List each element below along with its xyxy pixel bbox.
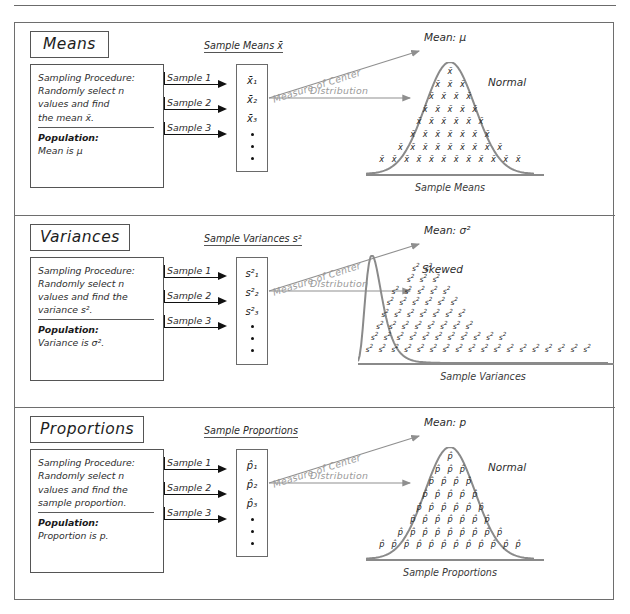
sample-arrow-label: Sample 3 [167, 122, 211, 133]
distribution-glyph: s2 [455, 344, 463, 353]
sample-arrow-line [164, 109, 222, 110]
sample-arrow-label: Sample 2 [167, 482, 211, 493]
distribution-glyph: p̂ [503, 540, 508, 548]
panel-title-proportions: Proportions [30, 416, 144, 443]
distribution-glyph: x̄ [460, 79, 465, 87]
distribution-glyph: x̄ [441, 92, 446, 100]
distribution-glyph: x̄ [466, 92, 471, 100]
procedure-line: variance s². [38, 303, 156, 316]
list-item: p̂₁ [247, 456, 257, 475]
distribution-glyph: s2 [443, 286, 451, 295]
distribution-name-means: Normal [488, 76, 526, 88]
procedure-line: Sampling Procedure: [38, 264, 156, 277]
distribution-glyph: x̄ [472, 130, 477, 138]
distribution-glyph: x̄ [423, 130, 428, 138]
distribution-glyph: x̄ [454, 155, 459, 163]
distribution-glyph: s2 [399, 298, 407, 307]
distribution-glyph: p̂ [398, 528, 403, 536]
population-value: Variance is σ². [38, 336, 156, 349]
axis-caption-variances: Sample Variances [440, 371, 526, 382]
sample-arrow-tick [164, 72, 165, 84]
distribution-glyph: s2 [532, 344, 540, 353]
distribution-glyph: p̂ [423, 490, 428, 498]
distribution-glyph: x̄ [460, 142, 465, 150]
distribution-glyph: p̂ [435, 515, 440, 523]
distribution-glyph: s2 [402, 321, 410, 330]
sample-arrow-label: Sample 1 [167, 457, 211, 468]
procedure-line: Randomly select n [38, 469, 156, 482]
sample-list-box-proportions: p̂₁p̂₂p̂₃ [236, 449, 268, 557]
sample-arrow-label: Sample 3 [167, 315, 211, 326]
list-ellipsis-dot [251, 133, 254, 136]
distribution-label: Distribution [310, 85, 368, 96]
procedure-box-variances: Sampling Procedure:Randomly select nvalu… [30, 257, 164, 381]
distribution-glyph: s2 [435, 333, 443, 342]
distribution-glyph: p̂ [447, 452, 452, 460]
distribution-glyph: p̂ [478, 540, 483, 548]
distribution-glyph: p̂ [485, 515, 490, 523]
distribution-glyph: s2 [417, 344, 425, 353]
distribution-glyph: p̂ [447, 515, 452, 523]
distribution-glyph: s2 [570, 344, 578, 353]
distribution-glyph: x̄ [454, 92, 459, 100]
distribution-glyph: s2 [432, 275, 440, 284]
distribution-glyph: s2 [404, 286, 412, 295]
distribution-glyph: s2 [473, 333, 481, 342]
distribution-glyph: p̂ [423, 515, 428, 523]
procedure-line: sample proportion. [38, 496, 156, 509]
sample-arrow-line [164, 494, 222, 495]
distribution-glyph: x̄ [448, 67, 453, 75]
distribution-glyph: x̄ [429, 117, 434, 125]
distribution-glyph: p̂ [460, 490, 465, 498]
distribution-glyph: s2 [425, 298, 433, 307]
distribution-glyph: x̄ [429, 92, 434, 100]
distribution-glyph: x̄ [423, 142, 428, 150]
sample-arrow-line [164, 519, 222, 520]
distribution-glyph: p̂ [379, 540, 384, 548]
distribution-glyph: p̂ [447, 528, 452, 536]
distribution-glyph: s2 [417, 286, 425, 295]
distribution-glyph: p̂ [441, 502, 446, 510]
distribution-glyph: p̂ [460, 465, 465, 473]
procedure-line: Randomly select n [38, 84, 156, 97]
distribution-glyph: x̄ [448, 142, 453, 150]
sample-list-box-variances: s²₁s²₂s²₃ [236, 257, 268, 365]
list-item: x̄₁ [247, 71, 257, 90]
sample-arrow-tick [164, 97, 165, 109]
axis-caption-proportions: Sample Proportions [403, 567, 497, 578]
distribution-glyph: s2 [376, 321, 384, 330]
distribution-glyph: s2 [558, 344, 566, 353]
sample-arrow-line [164, 277, 222, 278]
sample-list-box-means: x̄₁x̄₂x̄₃ [236, 64, 268, 172]
distribution-glyph: x̄ [410, 142, 415, 150]
distribution-glyph: s2 [466, 321, 474, 330]
distribution-glyph: p̂ [460, 515, 465, 523]
procedure-box-proportions: Sampling Procedure:Randomly select nvalu… [30, 449, 164, 573]
distribution-glyph: p̂ [466, 540, 471, 548]
distribution-glyph: s2 [420, 309, 428, 318]
list-item: p̂₂ [247, 475, 257, 494]
distribution-name-proportions: Normal [488, 461, 526, 473]
distribution-glyph: p̂ [423, 528, 428, 536]
list-ellipsis-dot [251, 518, 254, 521]
sample-arrow-line [164, 134, 222, 135]
distribution-glyph: x̄ [491, 155, 496, 163]
sample-arrow-tick [164, 265, 165, 277]
distribution-glyph: s2 [453, 321, 461, 330]
distribution-glyph: s2 [422, 333, 430, 342]
distribution-glyph: s2 [381, 309, 389, 318]
distribution-glyph: s2 [386, 298, 394, 307]
sample-arrow-head [218, 272, 227, 280]
distribution-glyph: p̂ [410, 528, 415, 536]
distribution-label: Distribution [310, 470, 368, 481]
distribution-glyph: x̄ [441, 155, 446, 163]
mean-label-proportions: Mean: p [424, 416, 466, 428]
distribution-glyph: s2 [430, 344, 438, 353]
list-ellipsis-dot [251, 325, 254, 328]
sample-arrow-line [164, 302, 222, 303]
procedure-line: values and find the [38, 290, 156, 303]
sample-arrow-label: Sample 2 [167, 97, 211, 108]
distribution-glyph: x̄ [466, 117, 471, 125]
distribution-glyph: p̂ [454, 540, 459, 548]
distribution-glyph: p̂ [516, 540, 521, 548]
